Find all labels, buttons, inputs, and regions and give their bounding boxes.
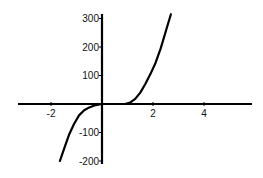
ticks xyxy=(51,19,204,162)
y-tick-label: 200 xyxy=(82,42,99,53)
x-tick-label: 4 xyxy=(201,108,207,119)
y-tick-label: 300 xyxy=(82,13,99,24)
chart: -224300200100-100-200 xyxy=(0,0,263,178)
x-tick-label: -2 xyxy=(47,108,56,119)
x-tick-label: 2 xyxy=(150,108,156,119)
data-curve xyxy=(60,14,171,161)
axes xyxy=(18,14,252,164)
y-tick-label: -200 xyxy=(79,156,99,167)
y-tick-label: -100 xyxy=(79,127,99,138)
y-tick-label: 100 xyxy=(82,70,99,81)
tick-labels: -224300200100-100-200 xyxy=(47,13,208,167)
